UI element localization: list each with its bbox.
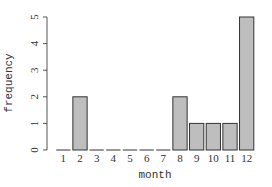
y-tick-label: 3 (28, 67, 40, 73)
bar-chart: 012345 123456789101112 month frequency (0, 0, 272, 187)
x-tick-label: 4 (111, 152, 117, 164)
x-tick-label: 9 (194, 152, 200, 164)
x-tick-label: 7 (161, 152, 167, 164)
x-tick-label: 11 (225, 152, 236, 164)
bars (56, 17, 254, 150)
x-tick-label: 10 (208, 152, 220, 164)
y-tick-label: 0 (28, 147, 40, 153)
x-tick-label: 1 (61, 152, 67, 164)
y-tick-label: 1 (28, 121, 40, 127)
bar-month-9 (190, 123, 204, 150)
x-tick-label: 2 (77, 152, 83, 164)
x-tick-label: 5 (127, 152, 133, 164)
x-tick-labels: 123456789101112 (61, 152, 253, 164)
x-axis-title: month (138, 169, 171, 181)
bar-month-10 (206, 123, 220, 150)
y-axis-title: frequency (3, 53, 15, 113)
bar-month-11 (223, 123, 237, 150)
bar-month-2 (73, 97, 87, 150)
x-tick-label: 6 (144, 152, 150, 164)
y-tick-label: 5 (28, 14, 40, 20)
y-tick-label: 4 (28, 40, 40, 46)
x-tick-label: 8 (177, 152, 183, 164)
bar-month-12 (240, 17, 254, 150)
x-tick-label: 3 (94, 152, 100, 164)
bar-month-8 (173, 97, 187, 150)
y-axis: 012345 (28, 14, 47, 153)
y-tick-label: 2 (28, 94, 40, 100)
x-tick-label: 12 (241, 152, 252, 164)
